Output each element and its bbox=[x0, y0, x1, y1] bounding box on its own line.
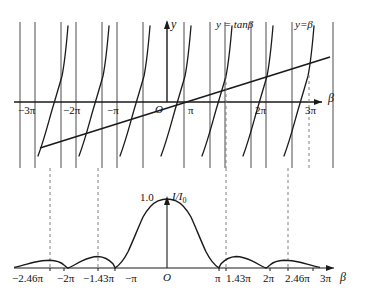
bottom-y-axis-arrow bbox=[164, 196, 170, 205]
top-x-axis-label: β bbox=[328, 92, 334, 104]
top-tick-label-3pi: 3π bbox=[305, 105, 316, 116]
bottom-tick-label-neg143pi: −1.43π bbox=[83, 273, 114, 284]
bottom-tick-label-246pi: 2.46π bbox=[285, 273, 310, 284]
bottom-tick-label-neg2pi: −2π bbox=[57, 273, 74, 284]
bottom-x-axis-label: β bbox=[340, 271, 346, 283]
bottom-y-axis-label-main: I/I bbox=[172, 190, 182, 202]
bottom-tick-label-3pi: 3π bbox=[320, 273, 331, 284]
top-tick-label-pi: π bbox=[188, 105, 194, 116]
bottom-x-axis-arrow bbox=[326, 265, 334, 271]
tan-branch bbox=[161, 26, 191, 156]
bottom-tick-label-negpi: −π bbox=[125, 273, 137, 284]
tan-branch bbox=[120, 26, 150, 156]
bottom-tick-label-143pi: 1.43π bbox=[226, 273, 251, 284]
tan-branch bbox=[202, 26, 232, 156]
tan-branch bbox=[243, 26, 273, 156]
bottom-tick-label-neg246pi: −2.46π bbox=[12, 273, 43, 284]
top-origin-label: O bbox=[155, 104, 163, 115]
tan-branch bbox=[79, 26, 109, 156]
top-dashed-markers bbox=[226, 75, 309, 168]
tan-branch bbox=[38, 26, 68, 156]
top-tick-label-negpi: −π bbox=[107, 105, 119, 116]
bottom-peak-label: 1.0 bbox=[140, 192, 154, 203]
bottom-y-axis-label-sub: 0 bbox=[182, 196, 186, 205]
top-tick-label-neg2pi: −2π bbox=[63, 105, 80, 116]
top-y-axis-arrow bbox=[164, 20, 170, 29]
figure-canvas bbox=[0, 0, 365, 307]
curve-label-line: y=β bbox=[295, 19, 313, 30]
bottom-origin-label: O bbox=[163, 272, 171, 283]
top-tick-label-2pi: 2π bbox=[255, 105, 266, 116]
bottom-tick-label-2pi: 2π bbox=[263, 273, 274, 284]
panel-connector-lines bbox=[50, 168, 288, 268]
diffraction-figure: y β O y = tanβ y=β −3π −2π −π π 2π 3π 1.… bbox=[0, 0, 365, 307]
top-tick-label-neg3pi: −3π bbox=[18, 105, 35, 116]
curve-label-tan: y = tanβ bbox=[216, 19, 253, 30]
bottom-y-axis-label: I/I0 bbox=[172, 191, 186, 205]
tan-curve bbox=[38, 26, 314, 156]
bottom-tick-label-pi: π bbox=[215, 273, 221, 284]
top-y-axis-label: y bbox=[171, 18, 176, 30]
